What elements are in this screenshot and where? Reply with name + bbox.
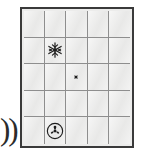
margin-paren-artifact: )) [0, 112, 20, 148]
board-grid [24, 11, 130, 144]
iron-cross-icon[interactable] [67, 68, 85, 86]
board-cell-r2-c3[interactable] [66, 38, 87, 65]
board-border [20, 7, 134, 148]
board-cell-r4-c2[interactable] [45, 91, 66, 118]
board-cell-r1-c5[interactable] [109, 11, 130, 38]
propeller-circle-icon[interactable] [46, 122, 64, 140]
page-canvas: )) [0, 0, 144, 161]
board-cell-r4-c4[interactable] [88, 91, 109, 118]
board-cell-r3-c3[interactable] [66, 64, 87, 91]
puzzle-board[interactable] [20, 7, 134, 148]
board-cell-r5-c3[interactable] [66, 117, 87, 144]
board-cell-r1-c2[interactable] [45, 11, 66, 38]
board-cell-r4-c3[interactable] [66, 91, 87, 118]
board-cell-r3-c4[interactable] [88, 64, 109, 91]
board-cell-r4-c5[interactable] [109, 91, 130, 118]
board-cell-r3-c5[interactable] [109, 64, 130, 91]
board-cell-r1-c4[interactable] [88, 11, 109, 38]
board-cell-r3-c2[interactable] [45, 64, 66, 91]
board-cell-r1-c3[interactable] [66, 11, 87, 38]
board-cell-r2-c1[interactable] [24, 38, 45, 65]
board-cell-r1-c1[interactable] [24, 11, 45, 38]
board-cell-r5-c1[interactable] [24, 117, 45, 144]
board-cell-r4-c1[interactable] [24, 91, 45, 118]
board-cell-r5-c4[interactable] [88, 117, 109, 144]
board-cell-r2-c4[interactable] [88, 38, 109, 65]
snowflake-icon[interactable] [46, 41, 64, 59]
board-cell-r5-c5[interactable] [109, 117, 130, 144]
board-cell-r3-c1[interactable] [24, 64, 45, 91]
board-cell-r5-c2[interactable] [45, 117, 66, 144]
board-cell-r2-c5[interactable] [109, 38, 130, 65]
board-cell-r2-c2[interactable] [45, 38, 66, 65]
